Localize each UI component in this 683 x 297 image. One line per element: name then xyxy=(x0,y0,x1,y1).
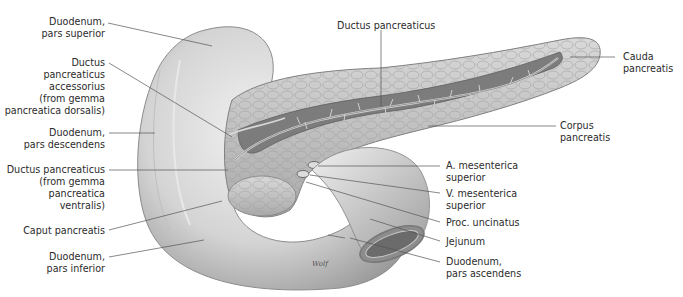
anatomy-figure: Wolf Duodenum, pars superior Ductus panc… xyxy=(0,0,683,297)
artist-signature: Wolf xyxy=(312,260,329,268)
label-cauda-pancreatis: Cauda pancreatis xyxy=(623,51,673,75)
label-v-mesenterica-superior: V. mesenterica superior xyxy=(446,188,517,212)
label-jejunum: Jejunum xyxy=(446,236,485,248)
label-duodenum-pars-inferior: Duodenum, pars inferior xyxy=(47,251,105,275)
label-duodenum-pars-descendens: Duodenum, pars descendens xyxy=(24,127,105,151)
label-ductus-pancreaticus: Ductus pancreaticus xyxy=(337,20,435,32)
label-ductus-pancreaticus-accessorius: Ductus pancreaticus accessorius (from ge… xyxy=(5,57,105,117)
label-duodenum-pars-superior: Duodenum, pars superior xyxy=(42,16,105,40)
label-proc-uncinatus: Proc. uncinatus xyxy=(446,217,520,229)
label-corpus-pancreatis: Corpus pancreatis xyxy=(560,120,610,144)
label-a-mesenterica-superior: A. mesenterica superior xyxy=(446,160,518,184)
label-duodenum-pars-ascendens: Duodenum, pars ascendens xyxy=(446,256,521,280)
label-caput-pancreatis: Caput pancreatis xyxy=(23,225,105,237)
label-ductus-pancreaticus-ventralis: Ductus pancreaticus (from gemma pancreat… xyxy=(7,164,105,212)
